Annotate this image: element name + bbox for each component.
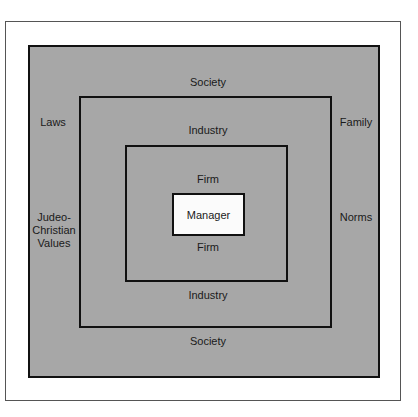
society-top-label: Society: [178, 76, 238, 89]
firm-bottom-label: Firm: [178, 241, 238, 254]
judeo-christian-values-label: Judeo- Christian Values: [29, 211, 79, 250]
industry-bottom-label: Industry: [178, 289, 238, 302]
values-line: Values: [38, 237, 71, 249]
norms-label: Norms: [333, 211, 379, 224]
manager-label: Manager: [187, 209, 230, 221]
christian-line: Christian: [32, 224, 75, 236]
industry-top-label: Industry: [178, 124, 238, 137]
society-bottom-label: Society: [178, 335, 238, 348]
manager-box: Manager: [172, 193, 245, 236]
firm-top-label: Firm: [178, 173, 238, 186]
family-label: Family: [333, 116, 379, 129]
laws-label: Laws: [33, 116, 73, 129]
judeo-line: Judeo-: [37, 211, 71, 223]
